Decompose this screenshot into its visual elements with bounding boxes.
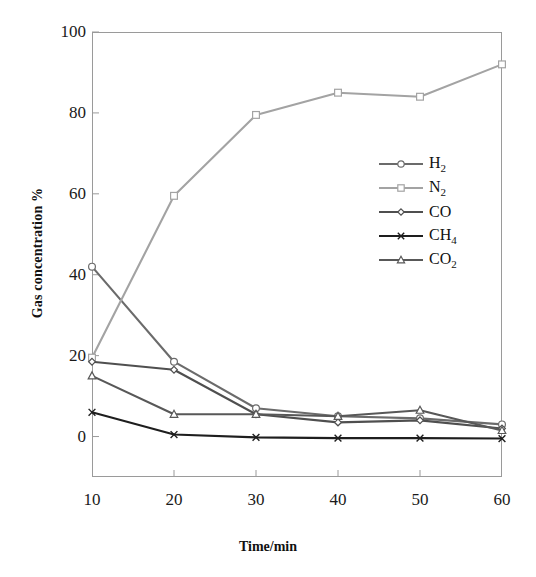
- legend-item-H2[interactable]: H2: [378, 152, 498, 176]
- legend-swatch-N2: [378, 181, 424, 195]
- legend-item-N2[interactable]: N2: [378, 176, 498, 200]
- x-axis-tick-labels: 102030405060: [0, 0, 536, 577]
- legend-swatch-H2: [378, 157, 424, 171]
- legend-item-CH4[interactable]: CH4: [378, 224, 498, 248]
- legend-swatch-CO2: [378, 253, 424, 267]
- x-axis-tick-label: 30: [234, 491, 278, 508]
- legend-label-CO: CO: [429, 204, 451, 220]
- legend-label-CH4: CH4: [429, 227, 457, 246]
- legend-label-H2: H2: [429, 155, 446, 174]
- legend-swatch-CH4: [378, 229, 424, 243]
- x-axis-tick-label: 50: [398, 491, 442, 508]
- x-axis-tick-label: 40: [316, 491, 360, 508]
- legend-item-CO2[interactable]: CO2: [378, 248, 498, 272]
- legend-label-CO2: CO2: [429, 251, 457, 270]
- chart-legend: H2N2COCH4CO2: [378, 152, 498, 272]
- x-axis-tick-label: 20: [152, 491, 196, 508]
- x-axis-tick-label: 10: [70, 491, 114, 508]
- legend-label-N2: N2: [429, 179, 446, 198]
- gas-concentration-chart: 020406080100 102030405060 Gas concentrat…: [0, 0, 536, 577]
- legend-item-CO[interactable]: CO: [378, 200, 498, 224]
- legend-swatch-CO: [378, 205, 424, 219]
- y-axis-title: Gas concentration %: [30, 153, 46, 353]
- x-axis-title: Time/min: [0, 539, 536, 555]
- x-axis-tick-label: 60: [480, 491, 524, 508]
